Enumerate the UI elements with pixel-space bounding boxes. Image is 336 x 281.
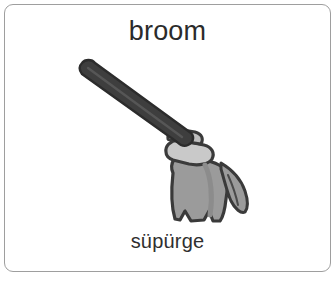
vocabulary-flashcard: broom süpürge: [4, 4, 331, 272]
word-turkish: süpürge: [5, 231, 330, 251]
broom-handle-highlight: [88, 68, 182, 137]
word-english: broom: [5, 18, 330, 45]
broom-illustration-svg: [5, 51, 331, 227]
broom-bristle-head: [172, 159, 228, 221]
broom-illustration: [5, 51, 331, 227]
